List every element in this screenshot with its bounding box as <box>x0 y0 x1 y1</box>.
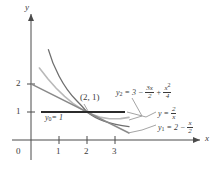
y-var: y <box>158 109 162 118</box>
y-axis-arrow <box>28 14 34 21</box>
point-label-2-1: (2, 1) <box>80 93 100 102</box>
fraction-numerator: x <box>187 120 193 127</box>
x-tick-label-1: 1 <box>56 147 61 156</box>
y1-rest: = 2 − <box>167 123 186 132</box>
y-tick-label-1: 1 <box>16 107 21 116</box>
y2-rest: = 3 − <box>125 88 144 97</box>
origin-label: 0 <box>16 147 21 156</box>
y-equals: = <box>164 109 169 118</box>
y-axis-label: y <box>25 3 29 12</box>
fraction-x-over-2: x 2 <box>187 120 193 136</box>
leader-line-y1 <box>128 125 156 133</box>
fraction-xsquared-over-4: x2 4 <box>163 82 171 101</box>
equation-label-y0: y0= 1 <box>45 114 63 122</box>
equation-label-y2: y2 = 3 − 3x 2 + x2 4 <box>116 82 171 101</box>
fraction-denominator: 2 <box>145 92 154 100</box>
exponent: 2 <box>167 82 170 88</box>
x-tick-label-2: 2 <box>84 147 89 156</box>
x-axis-arrow <box>193 137 200 143</box>
leader-line-y2 <box>129 98 142 120</box>
y1-subscript: 1 <box>162 126 165 132</box>
fraction-denominator: 4 <box>163 92 171 100</box>
y2-plus-sign: + <box>156 88 161 97</box>
fraction-denominator: 2 <box>187 127 193 135</box>
x-axis-label: x <box>205 134 209 143</box>
figure-canvas: y x 0 1 2 3 1 2 (2, 1) y0= 1 y = 2 x y1 … <box>0 0 222 171</box>
fraction-numerator: x2 <box>163 82 171 92</box>
equation-label-y1: y1 = 2 − x 2 <box>158 120 193 136</box>
fraction-3x-over-2: 3x 2 <box>145 85 154 101</box>
graph-svg <box>0 0 222 171</box>
x-tick-label-3: 3 <box>112 147 117 156</box>
y0-rest: = 1 <box>52 113 63 122</box>
fraction-numerator: 3x <box>145 85 154 92</box>
y2-subscript: 2 <box>120 91 123 97</box>
fraction-numerator: 2 <box>171 106 177 113</box>
y-tick-label-2: 2 <box>16 79 21 88</box>
